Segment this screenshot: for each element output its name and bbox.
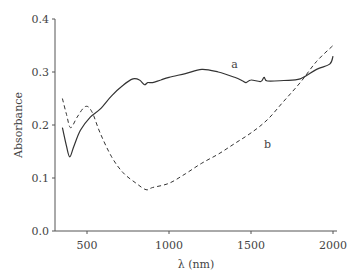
x-axis-label: λ (nm) [178, 258, 215, 271]
curve-labels: ab [231, 58, 271, 151]
absorbance-chart: 0.00.10.20.30.4 500100015002000 ab λ (nm… [0, 0, 360, 279]
x-axis-ticks: 500100015002000 [77, 231, 348, 252]
y-tick-label: 0.4 [32, 13, 50, 26]
series-line-a [62, 56, 333, 157]
y-tick-label: 0.1 [32, 172, 50, 185]
plot-series [62, 46, 333, 190]
curve-label-b: b [264, 138, 271, 151]
x-tick-label: 2000 [319, 239, 347, 252]
y-tick-label: 0.3 [32, 66, 50, 79]
x-tick-label: 1000 [155, 239, 183, 252]
y-axis-ticks: 0.00.10.20.30.4 [32, 13, 56, 238]
x-tick-label: 500 [77, 239, 98, 252]
y-tick-label: 0.2 [32, 119, 50, 132]
y-axis-label: Absorbance [12, 92, 25, 159]
curve-label-a: a [231, 58, 238, 71]
series-line-b [62, 46, 333, 190]
x-tick-label: 1500 [237, 239, 265, 252]
y-tick-label: 0.0 [32, 225, 50, 238]
